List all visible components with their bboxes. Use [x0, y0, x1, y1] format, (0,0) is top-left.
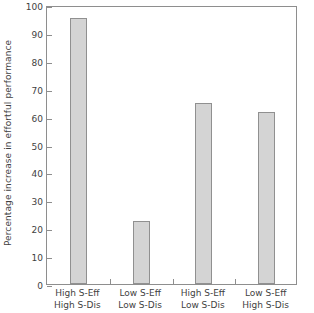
x-axis-category-label-line2: Low S-Dis [172, 300, 235, 312]
y-axis-tick-label: 60 [32, 114, 43, 124]
x-axis-category-label-line2: High S-Dis [234, 300, 297, 312]
y-axis-tick-label: 70 [32, 86, 43, 96]
x-axis-category-label-line2: High S-Dis [46, 300, 109, 312]
y-axis-tick-label: 30 [32, 197, 43, 207]
y-axis-tick-label: 100 [26, 2, 43, 12]
bar-chart-figure: Percentage increase in effortful perform… [0, 0, 314, 313]
x-axis-category-label-line1: High S-Eff [55, 288, 99, 298]
bar [133, 221, 150, 284]
bar [258, 112, 275, 284]
x-axis-category-label-line1: Low S-Eff [119, 288, 160, 298]
y-axis-tick: 70 [47, 91, 52, 92]
bar [195, 103, 212, 284]
y-axis-tick: 100 [47, 7, 52, 8]
y-axis-tick-label: 40 [32, 169, 43, 179]
y-axis-tick: 50 [47, 147, 52, 148]
bar [70, 18, 87, 284]
y-axis-tick: 0 [47, 286, 52, 287]
x-axis-category-label-line1: High S-Eff [181, 288, 225, 298]
plot-area: 0102030405060708090100 [46, 6, 297, 285]
x-axis-category-label: Low S-EffLow S-Dis [109, 288, 172, 311]
y-axis-tick-label: 0 [37, 281, 43, 291]
y-axis-tick: 40 [47, 174, 52, 175]
y-axis-tick: 60 [47, 119, 52, 120]
x-axis-category-labels: High S-EffHigh S-DisLow S-EffLow S-DisHi… [46, 288, 297, 313]
y-axis-tick: 90 [47, 35, 52, 36]
y-axis-tick-label: 10 [32, 253, 43, 263]
y-axis-title: Percentage increase in effortful perform… [3, 39, 13, 245]
y-axis-tick-label: 50 [32, 142, 43, 152]
x-axis-category-label-line1: Low S-Eff [245, 288, 286, 298]
y-axis-tick-label: 20 [32, 225, 43, 235]
y-axis-tick-label: 80 [32, 58, 43, 68]
x-axis-tick [235, 279, 236, 284]
y-axis-tick: 10 [47, 258, 52, 259]
y-axis-tick-label: 90 [32, 30, 43, 40]
y-axis-tick: 30 [47, 202, 52, 203]
x-axis-category-label: Low S-EffHigh S-Dis [234, 288, 297, 311]
x-axis-category-label-line2: Low S-Dis [109, 300, 172, 312]
y-axis-tick: 80 [47, 63, 52, 64]
x-axis-category-label: High S-EffLow S-Dis [172, 288, 235, 311]
x-axis-tick [110, 279, 111, 284]
x-axis-category-label: High S-EffHigh S-Dis [46, 288, 109, 311]
y-axis-tick: 20 [47, 230, 52, 231]
y-axis-title-container: Percentage increase in effortful perform… [0, 0, 16, 285]
x-axis-tick [173, 279, 174, 284]
